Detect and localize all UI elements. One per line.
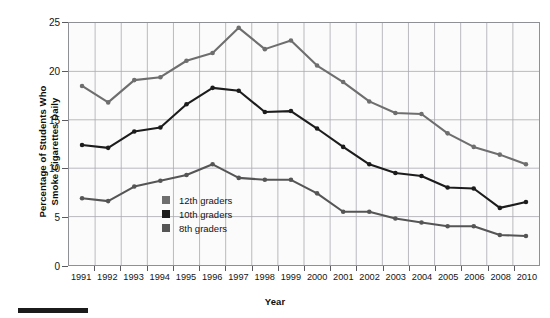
x-tick-mark [199, 266, 200, 271]
y-tick-mark [62, 266, 68, 267]
x-tick-mark [252, 266, 253, 271]
y-tick-label: 20 [18, 65, 60, 76]
x-tick-mark [330, 266, 331, 271]
y-tick-label: 0 [18, 261, 60, 272]
legend-label: 10th graders [179, 209, 232, 220]
legend-swatch-icon [162, 224, 170, 232]
y-tick-label: 15 [18, 114, 60, 125]
x-tick-mark [94, 266, 95, 271]
x-tick-mark [278, 266, 279, 271]
x-tick-mark [514, 266, 515, 271]
chart-figure: Percentage of Students Who Smoke Cigaret… [0, 0, 550, 318]
x-tick-mark [147, 266, 148, 271]
y-tick-label: 5 [18, 212, 60, 223]
x-tick-mark [435, 266, 436, 271]
y-tick-label: 25 [18, 17, 60, 28]
x-tick-mark [409, 266, 410, 271]
x-tick-mark [120, 266, 121, 271]
legend-item: 10th graders [162, 208, 232, 220]
chart-legend: 12th graders10th graders8th graders [162, 194, 232, 234]
plot-area [68, 22, 540, 266]
x-tick-mark [488, 266, 489, 271]
x-tick-mark [356, 266, 357, 271]
legend-label: 12th graders [179, 195, 232, 206]
x-tick-label: 2010 [505, 272, 549, 282]
series-lines [69, 23, 539, 265]
legend-swatch-icon [162, 210, 170, 218]
legend-swatch-icon [162, 196, 170, 204]
x-tick-mark [383, 266, 384, 271]
legend-item: 12th graders [162, 194, 232, 206]
x-tick-mark [225, 266, 226, 271]
x-tick-mark [304, 266, 305, 271]
x-tick-mark [173, 266, 174, 271]
bottom-partial-bar [18, 308, 88, 313]
x-axis-title: Year [0, 296, 550, 307]
x-tick-mark [461, 266, 462, 271]
legend-label: 8th graders [179, 223, 227, 234]
y-tick-label: 10 [18, 163, 60, 174]
legend-item: 8th graders [162, 222, 232, 234]
